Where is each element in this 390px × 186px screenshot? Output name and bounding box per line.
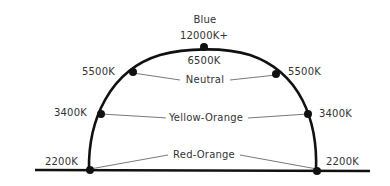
connector-neutral-right bbox=[230, 75, 276, 80]
label-12000k: 12000K+ bbox=[180, 30, 228, 42]
label-2200k-right: 2200K bbox=[326, 156, 359, 168]
label-yellow-orange: Yellow-Orange bbox=[166, 112, 246, 124]
label-neutral: Neutral bbox=[183, 74, 227, 86]
connector-red-left bbox=[90, 155, 168, 169]
dot-2200k-left bbox=[86, 166, 94, 174]
connector-yellow-right bbox=[248, 114, 308, 118]
dot-5500k-left bbox=[129, 68, 137, 76]
color-temperature-diagram: Blue 12000K+ 6500K 5500K 5500K Neutral 3… bbox=[0, 0, 390, 186]
label-2200k-left: 2200K bbox=[45, 156, 78, 168]
connector-red-right bbox=[240, 155, 317, 169]
dot-3400k-right bbox=[304, 110, 312, 118]
label-5500k-left: 5500K bbox=[82, 66, 115, 78]
connector-yellow-left bbox=[101, 114, 168, 118]
peak-dot bbox=[200, 43, 208, 51]
label-3400k-left: 3400K bbox=[54, 107, 87, 119]
label-blue: Blue bbox=[194, 14, 217, 26]
dot-5500k-right bbox=[272, 70, 280, 78]
label-6500k: 6500K bbox=[187, 55, 220, 67]
label-red-orange: Red-Orange bbox=[170, 149, 238, 161]
dot-3400k-left bbox=[97, 110, 105, 118]
connector-neutral-left bbox=[133, 73, 180, 80]
dot-2200k-right bbox=[313, 167, 321, 175]
label-3400k-right: 3400K bbox=[319, 108, 352, 120]
label-5500k-right: 5500K bbox=[288, 66, 321, 78]
